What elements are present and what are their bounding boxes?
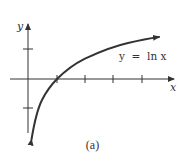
x-axis-label: x xyxy=(170,81,177,94)
curve-label: y = ln x xyxy=(118,50,167,62)
figure-caption: (a) xyxy=(0,138,185,153)
ln-graph-figure: y x y = ln x (a) xyxy=(0,0,185,163)
y-axis-label: y xyxy=(16,20,24,33)
